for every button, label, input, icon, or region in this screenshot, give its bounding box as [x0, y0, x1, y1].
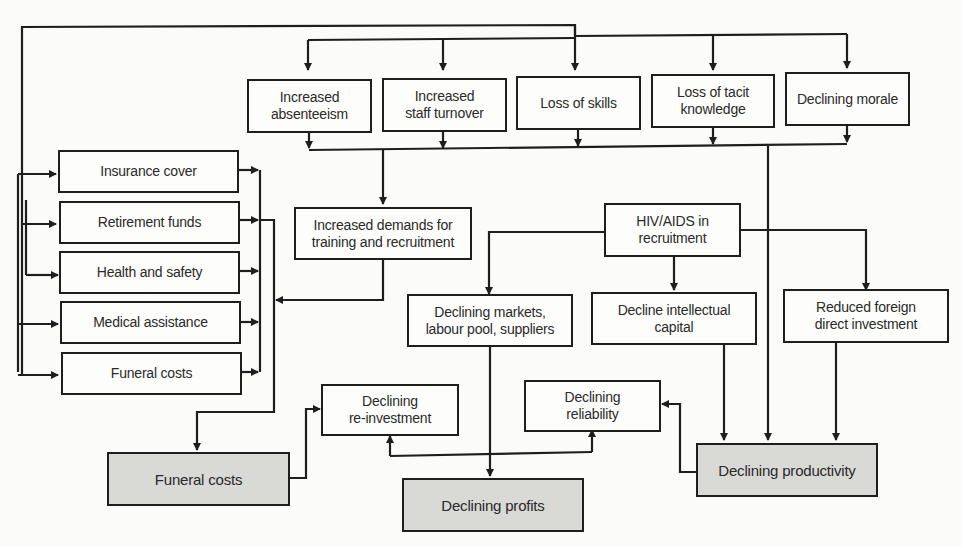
box-label: Increased staff turnover	[405, 88, 484, 122]
box-declining-productivity: Declining productivity	[696, 443, 878, 497]
box-health-and-safety: Health and safety	[59, 251, 240, 294]
box-label: Funeral costs	[111, 365, 192, 382]
box-label: Insurance cover	[100, 163, 197, 180]
box-funeral-costs-outcome: Funeral costs	[107, 452, 290, 506]
box-label: Declining productivity	[718, 462, 855, 479]
box-label: Declining markets, labour pool, supplier…	[426, 304, 555, 338]
box-retirement-funds: Retirement funds	[59, 201, 240, 244]
box-label: Declining profits	[441, 497, 544, 514]
box-label: Declining morale	[797, 91, 898, 108]
box-decline-intellectual-capital: Decline intellectual capital	[591, 292, 757, 345]
box-training-recruitment: Increased demands for training and recru…	[294, 207, 472, 260]
box-label: Increased absenteeism	[271, 89, 348, 123]
box-declining-reliability: Declining reliability	[524, 380, 661, 432]
box-declining-reinvestment: Declining re-investment	[321, 384, 459, 436]
box-declining-profits: Declining profits	[402, 478, 584, 532]
box-declining-markets: Declining markets, labour pool, supplier…	[407, 294, 573, 347]
box-increased-absenteeism: Increased absenteeism	[247, 79, 372, 133]
box-insurance-cover: Insurance cover	[58, 150, 239, 193]
box-reduced-fdi: Reduced foreign direct investment	[783, 289, 949, 343]
box-label: Declining re-investment	[349, 393, 431, 427]
box-funeral-costs-column: Funeral costs	[61, 352, 242, 395]
box-medical-assistance: Medical assistance	[60, 301, 241, 344]
box-hiv-aids-recruitment: HIV/AIDS in recruitment	[604, 203, 741, 257]
box-label: Loss of tacit knowledge	[677, 84, 749, 118]
box-label: Retirement funds	[98, 214, 201, 231]
box-increased-staff-turnover: Increased staff turnover	[382, 78, 507, 132]
box-label: Decline intellectual capital	[618, 302, 731, 336]
box-label: HIV/AIDS in recruitment	[636, 213, 709, 247]
box-label: Health and safety	[97, 264, 203, 281]
box-label: Loss of skills	[540, 95, 617, 112]
box-label: Increased demands for training and recru…	[312, 217, 454, 251]
box-declining-morale: Declining morale	[785, 72, 910, 126]
box-loss-of-skills: Loss of skills	[516, 76, 641, 130]
box-label: Medical assistance	[93, 314, 208, 331]
box-loss-of-tacit-knowledge: Loss of tacit knowledge	[651, 74, 775, 128]
box-label: Declining reliability	[565, 389, 621, 423]
box-label: Reduced foreign direct investment	[815, 299, 917, 333]
box-label: Funeral costs	[155, 471, 242, 488]
